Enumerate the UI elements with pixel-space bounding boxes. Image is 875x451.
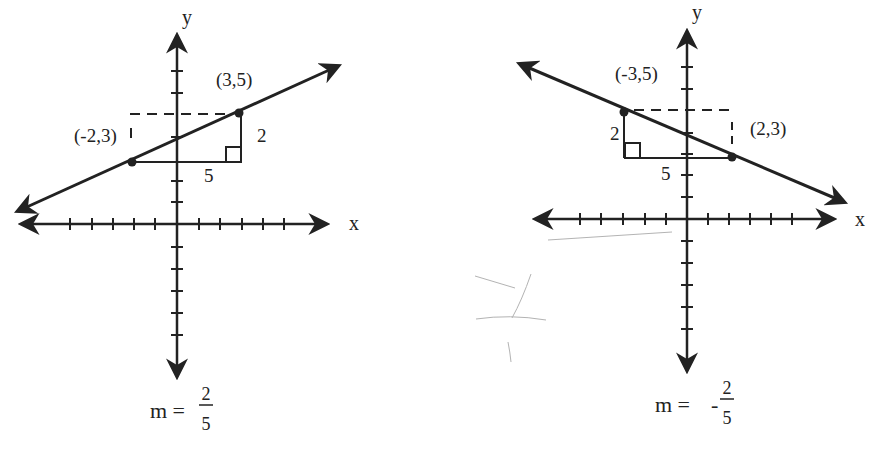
slope-formula-negative: m = - 2 5: [655, 378, 734, 428]
rise-label: 2: [257, 125, 267, 146]
slope-denominator: 5: [723, 408, 732, 428]
line-negative-slope: [520, 64, 844, 202]
point-neg2-3: [128, 158, 137, 167]
point-neg3-5: [620, 108, 629, 117]
run-label: 5: [661, 163, 671, 184]
x-axis-label: x: [855, 208, 865, 230]
slope-prefix: m =: [655, 392, 690, 417]
right-angle-marker: [226, 147, 241, 162]
slope-prefix: m =: [150, 398, 185, 423]
point-3-5: [235, 109, 244, 118]
rise-label: 2: [610, 123, 620, 144]
y-axis-label: y: [182, 6, 192, 29]
run-label: 5: [204, 165, 214, 186]
point-label-neg3-5: (-3,5): [615, 63, 658, 85]
graph-positive-slope: y x (-2,3) (3,5) 2 5 m = 2 5: [18, 6, 359, 434]
x-axis-label: x: [349, 212, 359, 234]
slope-formula-positive: m = 2 5: [150, 384, 213, 434]
right-angle-marker: [625, 143, 640, 158]
slope-numerator: 2: [202, 384, 211, 404]
slope-denominator: 5: [202, 414, 211, 434]
point-label-3-5: (3,5): [216, 69, 252, 91]
point-label-2-3: (2,3): [750, 118, 786, 140]
graph-negative-slope: y x (-3,5) (2,3) 2 5 m = - 2 5: [520, 1, 865, 428]
y-axis-label: y: [692, 1, 702, 24]
point-2-3: [728, 153, 737, 162]
slope-diagram: y x (-2,3) (3,5) 2 5 m = 2 5: [0, 0, 875, 451]
slope-sign: -: [711, 392, 718, 417]
pencil-marks: [475, 232, 672, 362]
point-label-neg2-3: (-2,3): [74, 125, 117, 147]
slope-numerator: 2: [723, 378, 732, 398]
